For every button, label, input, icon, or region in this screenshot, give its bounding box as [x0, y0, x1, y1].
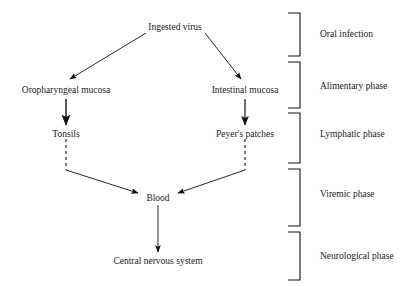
node-peyers-patches: Peyer's patches	[216, 129, 274, 140]
phase-label-alimentary-phase: Alimentary phase	[320, 81, 387, 92]
edge-tonsils-to-blood	[66, 170, 138, 193]
bracket-viremic-phase	[288, 169, 300, 226]
phase-label-neurological-phase: Neurological phase	[320, 251, 394, 262]
node-blood: Blood	[146, 193, 169, 204]
node-tonsils: Tonsils	[52, 129, 79, 140]
phase-label-lymphatic-phase: Lymphatic phase	[320, 129, 385, 140]
edge-virus-to-intestinal	[205, 33, 241, 79]
flow-connectors	[0, 0, 417, 286]
phase-label-viremic-phase: Viremic phase	[320, 189, 375, 200]
node-oropharyngeal-mucosa: Oropharyngeal mucosa	[22, 85, 110, 96]
diagram-canvas: Ingested virus Oropharyngeal mucosa Inte…	[0, 0, 417, 286]
node-central-nervous-system: Central nervous system	[113, 256, 202, 267]
bracket-alimentary-phase	[288, 62, 300, 108]
edge-peyers-to-blood	[178, 170, 245, 193]
node-ingested-virus: Ingested virus	[148, 22, 202, 33]
edge-virus-to-oropharyngeal	[70, 33, 146, 79]
phase-label-oral-infection: Oral infection	[320, 29, 373, 40]
bracket-oral-infection	[288, 13, 300, 56]
bracket-neurological-phase	[288, 232, 300, 280]
node-intestinal-mucosa: Intestinal mucosa	[212, 85, 279, 96]
bracket-lymphatic-phase	[288, 113, 300, 163]
